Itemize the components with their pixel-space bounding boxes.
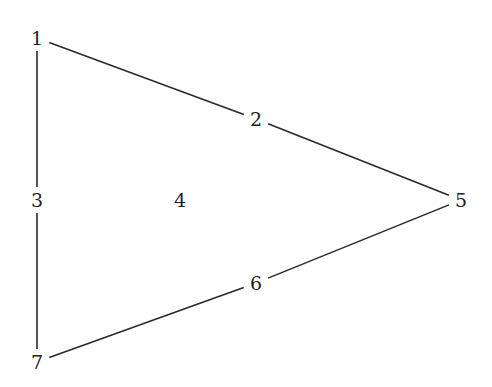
edge-6-7 bbox=[49, 287, 244, 357]
node-3-label: 3 bbox=[31, 189, 43, 211]
nodes-group: 1 2 3 4 5 6 7 bbox=[31, 27, 467, 373]
node-5-label: 5 bbox=[455, 189, 467, 211]
node-7-label: 7 bbox=[31, 351, 43, 373]
node-2-label: 2 bbox=[250, 108, 262, 130]
node-6-label: 6 bbox=[250, 272, 262, 294]
edges-group bbox=[37, 43, 449, 358]
edge-5-6 bbox=[268, 205, 449, 278]
node-1-label: 1 bbox=[31, 27, 43, 49]
edge-2-5 bbox=[268, 124, 449, 195]
graph-diagram: 1 2 3 4 5 6 7 bbox=[0, 0, 492, 387]
edge-1-2 bbox=[49, 43, 244, 115]
node-4-label: 4 bbox=[174, 189, 186, 211]
